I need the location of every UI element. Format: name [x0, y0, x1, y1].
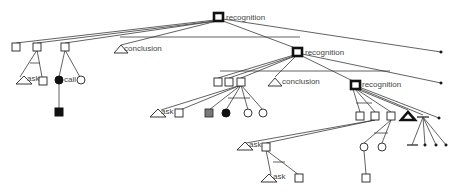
- l1-ask-node: ask: [16, 74, 40, 84]
- l3-ask-sibling-square: [262, 143, 270, 151]
- l3-square-a: [356, 112, 364, 120]
- l3-ask-node: ask: [237, 140, 262, 150]
- l3-square-b: [371, 112, 379, 120]
- l3-recognition-node: recognition: [351, 80, 401, 89]
- l2-square-b: [225, 78, 233, 86]
- l3-leaf-square: [362, 174, 370, 182]
- l2-ask-node: ask: [150, 107, 174, 117]
- l2-ask-label: ask: [161, 107, 174, 116]
- l1-terminal-dot: [440, 51, 442, 53]
- l2-hatched-square: [205, 109, 213, 117]
- l1-square-c: [61, 43, 69, 51]
- l2-circle-a: [244, 109, 252, 117]
- root-edges: [16, 19, 458, 52]
- root-label: recognition: [226, 13, 265, 22]
- l2-conclusion-node: conclusion: [268, 77, 320, 86]
- t-bar-leaf-dot-a: [424, 144, 426, 146]
- l1-ask-sibling-square: [39, 77, 47, 85]
- l2-filled-circle: [222, 109, 230, 117]
- l1-call-node: call: [55, 75, 76, 84]
- level3-edges: [246, 87, 446, 175]
- l1-call-sibling-circle: [77, 76, 85, 84]
- l3-recognition-label: recognition: [362, 80, 401, 89]
- l2-terminal-dot: [440, 82, 442, 84]
- l1-call-label: call: [64, 75, 76, 84]
- l2-recognition-node: recognition: [293, 48, 344, 57]
- l2-recognition-label: recognition: [305, 48, 344, 57]
- l4-ask-label: ask: [273, 172, 286, 181]
- l3-circle-a: [360, 143, 368, 151]
- l2-square-c: [237, 78, 245, 86]
- l2-conclusion-label: conclusion: [282, 77, 320, 86]
- l4-ask-node: ask: [261, 172, 286, 182]
- l2-circle-b: [259, 109, 267, 117]
- t-bar-leaf-dot-c: [445, 144, 447, 146]
- l3-terminal-dot: [438, 117, 440, 119]
- l1-conclusion-label: conclusion: [124, 44, 162, 53]
- tree-diagram: recognition conclusion ask call recognit…: [0, 0, 458, 194]
- l3-square-c: [387, 112, 395, 120]
- l1-square-a: [12, 43, 20, 51]
- l3-bold-triangle: [401, 112, 415, 120]
- l1-ask-label: ask: [27, 74, 40, 83]
- l4-ask-sibling-square: [295, 174, 303, 182]
- l3-ask-label: ask: [249, 140, 262, 149]
- l1-square-b: [33, 43, 41, 51]
- l1-conclusion-node: conclusion: [114, 44, 162, 53]
- l2-square-a: [214, 78, 222, 86]
- l1-filled-square: [55, 108, 63, 116]
- t-bar-leaf-dot-b: [435, 144, 437, 146]
- root-recognition-node: recognition: [214, 13, 265, 22]
- l3-circle-b: [378, 143, 386, 151]
- l2-ask-sibling-square: [175, 109, 183, 117]
